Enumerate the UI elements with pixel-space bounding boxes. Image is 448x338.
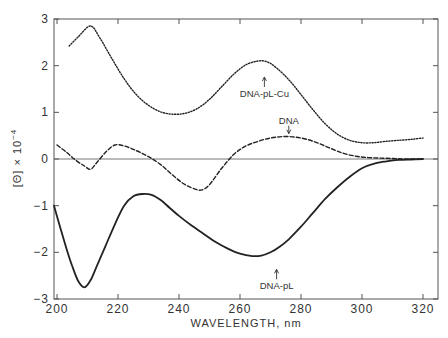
y-tick-label: 1 [41,105,49,119]
x-tick-label: 300 [350,302,373,316]
curve-dna [57,137,423,191]
y-tick-label: 3 [41,12,49,26]
y-tick-label: −3 [33,292,49,306]
y-tick-label: 0 [41,152,49,166]
curve-dna-pl [54,159,423,287]
curve-label-dna-pl-cu: DNA-pL-Cu [240,88,289,99]
x-tick-label: 240 [167,302,190,316]
data-curves [54,26,423,287]
x-axis-title: WAVELENGTH, nm [190,317,301,329]
curve-labels: DNA-pL-CuDNADNA-pL [240,77,300,291]
y-tick-label: −2 [33,245,49,259]
curve-label-dna: DNA [279,115,300,126]
curve-label-dna-pl: DNA-pL [260,280,294,291]
x-tick-label: 260 [228,302,251,316]
x-tick-label: 220 [106,302,129,316]
y-tick-label: −1 [33,199,49,213]
curve-dna-pl-cu [69,26,423,143]
x-tick-label: 280 [289,302,312,316]
svg-text:[Θ] × 10−4: [Θ] × 10−4 [9,129,23,188]
x-tick-label: 320 [411,302,434,316]
cd-spectrum-chart: 2002202402602803003203210−1−2−3 DNA-pL-C… [0,0,448,338]
y-axis-title-text: [Θ] × 10 [11,140,23,187]
y-tick-label: 2 [41,59,49,73]
y-axis-title-exponent: −4 [9,129,18,140]
y-axis-title: [Θ] × 10−4 [9,129,23,188]
